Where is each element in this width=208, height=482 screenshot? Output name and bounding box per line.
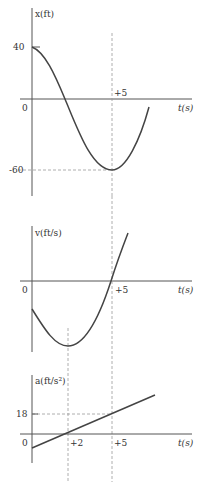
- position-curve: [32, 47, 149, 170]
- position-ytick-neg60: -60: [9, 165, 24, 175]
- acceleration-xtick-5: +5: [114, 438, 128, 448]
- velocity-graph: v(ft/s) 0 +5 t(s): [20, 196, 194, 482]
- acceleration-line: [32, 395, 155, 448]
- velocity-xtick-5: +5: [115, 285, 129, 295]
- acceleration-ytick-18: 18: [16, 409, 28, 419]
- velocity-origin: 0: [22, 285, 28, 295]
- position-graph: x(ft) 40 0 -60 +5 t(s): [9, 8, 194, 196]
- velocity-curve: [32, 233, 128, 346]
- acceleration-xlabel: t(s): [178, 438, 194, 448]
- position-origin: 0: [22, 103, 28, 113]
- position-xlabel: t(s): [178, 103, 194, 113]
- kinematics-figure: x(ft) 40 0 -60 +5 t(s) v(ft/s) 0 +5 t(s)…: [0, 0, 208, 482]
- acceleration-origin: 0: [22, 438, 28, 448]
- acceleration-graph: a(ft/s²) 18 0 +2 +5 t(s): [16, 375, 194, 463]
- velocity-xlabel: t(s): [178, 285, 194, 295]
- velocity-ylabel: v(ft/s): [34, 228, 62, 238]
- position-xtick-5: +5: [114, 88, 128, 98]
- acceleration-ylabel: a(ft/s²): [35, 376, 66, 386]
- position-ylabel: x(ft): [35, 9, 54, 19]
- position-ytick-40: 40: [13, 42, 25, 52]
- acceleration-xtick-2: +2: [70, 438, 83, 448]
